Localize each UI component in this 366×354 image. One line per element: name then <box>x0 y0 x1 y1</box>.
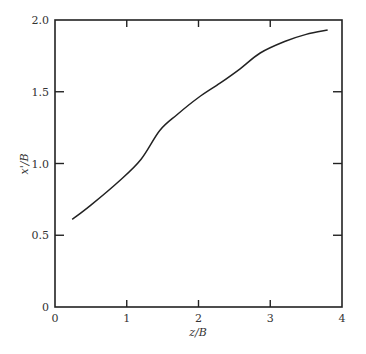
y-tick-label: 1.5 <box>32 86 50 99</box>
y-tick-label: 2.0 <box>32 14 50 27</box>
x-tick-label: 0 <box>52 312 59 325</box>
y-tick-label: 0.5 <box>32 229 50 242</box>
x-axis-label: z/B <box>188 326 207 339</box>
y-tick-label: 0 <box>42 301 49 314</box>
chart: 0123400.51.01.52.0 z/B x'/B <box>0 0 366 354</box>
y-tick-label: 1.0 <box>32 158 50 171</box>
y-axis-label: x'/B <box>18 153 31 174</box>
x-tick-label: 3 <box>267 312 274 325</box>
data-curve <box>72 30 327 219</box>
x-tick-label: 2 <box>195 312 202 325</box>
x-tick-label: 4 <box>339 312 346 325</box>
plot-area: 0123400.51.01.52.0 <box>32 14 346 325</box>
x-tick-label: 1 <box>123 312 130 325</box>
plot-frame <box>55 20 342 307</box>
